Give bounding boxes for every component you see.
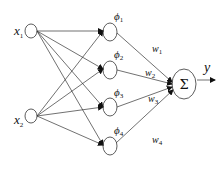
weight-label-w3: w3 (148, 93, 159, 106)
hidden-label-phi3: ϕ3 (114, 86, 124, 100)
edge-phi3-sum (117, 87, 172, 107)
hidden-node-circle (103, 23, 117, 41)
hidden-sum-edges (116, 33, 173, 143)
output-label-y: y (202, 60, 211, 75)
sum-node: Σ (172, 69, 196, 99)
hidden-label-phi2: ϕ2 (114, 48, 124, 62)
sigma-symbol: Σ (179, 77, 188, 92)
input-node-circle (25, 109, 37, 123)
edge-x1-phi4 (37, 31, 103, 145)
input-label-x1: x1 (13, 23, 24, 40)
weight-label-w4: w4 (152, 134, 163, 147)
input-hidden-edges (37, 31, 103, 145)
hidden-node-phi3: ϕ3 (103, 86, 124, 116)
input-node-x1: x1 (13, 23, 37, 40)
edge-x2-phi3 (37, 107, 103, 116)
edge-x1-phi2 (37, 31, 103, 69)
input-label-x2: x2 (13, 112, 24, 129)
edge-x2-phi4 (37, 116, 103, 145)
input-node-circle (25, 24, 37, 38)
edge-x2-phi2 (37, 69, 103, 116)
weight-label-w2: w2 (145, 67, 156, 80)
hidden-label-phi4: ϕ4 (114, 124, 124, 138)
hidden-node-circle (103, 137, 117, 155)
hidden-node-circle (103, 98, 117, 116)
weight-label-w1: w1 (152, 43, 163, 56)
edge-x2-phi1 (37, 31, 103, 116)
edge-x1-phi3 (37, 31, 103, 107)
hidden-node-phi4: ϕ4 (103, 124, 124, 155)
edge-phi4-sum (116, 90, 173, 143)
hidden-node-circle (103, 61, 117, 79)
input-node-x2: x2 (13, 109, 37, 129)
hidden-label-phi1: ϕ1 (114, 10, 124, 24)
hidden-node-phi2: ϕ2 (103, 48, 124, 79)
rbf-network-diagram: x1 x2 ϕ1 ϕ2 ϕ3 ϕ4 w1 w2 w3 w4 Σ y (0, 0, 224, 176)
